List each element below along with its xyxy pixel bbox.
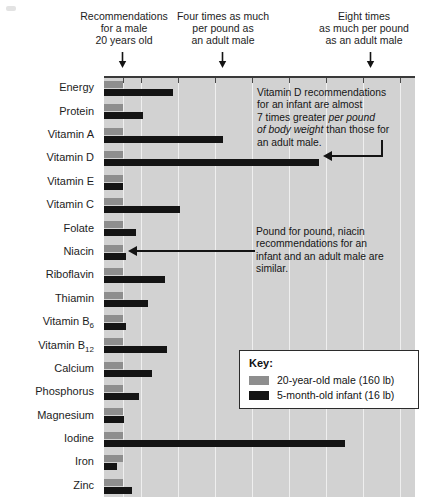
bar-infant-calcium xyxy=(104,370,152,377)
legend-item-infant: 5-month-old infant (16 lb) xyxy=(249,389,410,401)
bar-infant-thiamin xyxy=(104,300,148,307)
arrow-down-icon-1x xyxy=(118,52,127,68)
y-axis-labels: EnergyProteinVitamin AVitamin DVitamin E… xyxy=(0,76,100,497)
bar-infant-vitamin-b12 xyxy=(104,346,167,353)
y-label-vitamin-b12: Vitamin B12 xyxy=(38,340,94,355)
callout-niacin-line4: similar. xyxy=(256,263,288,274)
y-label-iodine: Iodine xyxy=(64,433,94,444)
bar-infant-iodine xyxy=(104,440,345,447)
bar-row xyxy=(104,289,415,312)
callout-vitamin-d: Vitamin D recommendations for an infant … xyxy=(257,87,415,149)
y-label-vitamin-e: Vitamin E xyxy=(47,176,94,187)
bar-row xyxy=(104,148,415,171)
legend-swatch-infant xyxy=(249,391,269,400)
bar-infant-vitamin-e xyxy=(104,183,123,190)
bar-adult-vitamin-e xyxy=(104,175,123,182)
bar-adult-vitamin-c xyxy=(104,198,123,205)
legend-label-infant: 5-month-old infant (16 lb) xyxy=(277,389,394,401)
legend: Key: 20-year-old male (160 lb) 5-month-o… xyxy=(239,350,419,409)
callout-vitd-line3a: 7 times greater xyxy=(257,112,329,123)
y-label-zinc: Zinc xyxy=(73,480,94,491)
callout-vitd-line4a: of body weight xyxy=(257,124,323,135)
bar-adult-phosphorus xyxy=(104,385,123,392)
bar-infant-niacin xyxy=(104,253,126,260)
bar-adult-vitamin-b6 xyxy=(104,315,123,322)
callout-vitd-line5: an adult male. xyxy=(257,137,322,148)
legend-item-adult: 20-year-old male (160 lb) xyxy=(249,374,410,386)
y-label-iron: Iron xyxy=(75,456,94,467)
callout-vitd-line1: Vitamin D recommendations xyxy=(257,87,386,98)
scan-artifact xyxy=(6,6,16,11)
callout-niacin: Pound for pound, niacin recommendations … xyxy=(256,226,416,276)
bar-adult-thiamin xyxy=(104,292,123,299)
callout-vitd-line4b: than those for xyxy=(323,124,389,135)
y-label-vitamin-a: Vitamin A xyxy=(48,129,94,140)
y-label-protein: Protein xyxy=(59,106,94,117)
arrow-left-icon-vitamin-d xyxy=(323,151,332,161)
bar-row xyxy=(104,195,415,218)
y-label-energy: Energy xyxy=(59,82,94,93)
callout-vitd-line3b: per pound xyxy=(329,112,375,123)
callout-niacin-line2: recommendations for an xyxy=(256,238,367,249)
bar-infant-magnesium xyxy=(104,416,124,423)
arrow-left-icon-niacin xyxy=(128,246,137,256)
bar-infant-phosphorus xyxy=(104,393,139,400)
bar-adult-calcium xyxy=(104,362,123,369)
y-label-niacin: Niacin xyxy=(63,246,94,257)
legend-label-adult: 20-year-old male (160 lb) xyxy=(277,374,394,386)
bar-adult-iron xyxy=(104,455,123,462)
bar-infant-folate xyxy=(104,229,136,236)
bar-adult-vitamin-a xyxy=(104,128,123,135)
legend-title: Key: xyxy=(249,357,410,369)
bar-infant-vitamin-b6 xyxy=(104,323,126,330)
callout-vitd-line2: for an infant are almost xyxy=(257,99,362,110)
bar-row xyxy=(104,172,415,195)
bar-infant-zinc xyxy=(104,487,132,494)
y-label-vitamin-c: Vitamin C xyxy=(47,199,94,210)
bar-adult-magnesium xyxy=(104,408,123,415)
y-label-folate: Folate xyxy=(63,223,94,234)
arrow-down-icon-8x xyxy=(366,52,375,68)
y-label-phosphorus: Phosphorus xyxy=(35,386,94,397)
callout-niacin-line3: infant and an adult male are xyxy=(256,251,384,262)
annotation-eight-times: Eight times as much per pound as an adul… xyxy=(300,10,428,47)
bar-infant-iron xyxy=(104,463,117,470)
y-label-vitamin-d: Vitamin D xyxy=(47,152,94,163)
bar-row xyxy=(104,452,415,475)
arrow-down-icon-4x xyxy=(218,52,227,68)
y-label-vitamin-b6: Vitamin B6 xyxy=(43,316,94,331)
callout-niacin-line1: Pound for pound, niacin xyxy=(256,226,365,237)
bar-adult-vitamin-d xyxy=(104,151,123,158)
annotation-four-times: Four times as much per pound as an adult… xyxy=(160,10,286,47)
bar-row xyxy=(104,429,415,452)
bar-infant-protein xyxy=(104,112,143,119)
bar-adult-iodine xyxy=(104,432,123,439)
legend-swatch-adult xyxy=(249,376,269,385)
bar-adult-riboflavin xyxy=(104,268,123,275)
y-label-magnesium: Magnesium xyxy=(37,410,94,421)
bar-infant-energy xyxy=(104,89,173,96)
plot-area: Vitamin D recommendations for an infant … xyxy=(104,76,415,497)
bar-infant-vitamin-c xyxy=(104,206,180,213)
y-label-calcium: Calcium xyxy=(54,363,94,374)
bar-row xyxy=(104,312,415,335)
bar-adult-vitamin-b12 xyxy=(104,338,123,345)
bar-adult-zinc xyxy=(104,479,123,486)
chart-canvas: Recommendations for a male 20 years old … xyxy=(0,0,428,502)
bar-infant-vitamin-a xyxy=(104,136,223,143)
bar-infant-riboflavin xyxy=(104,276,165,283)
leader-vitamin-d-horizontal xyxy=(332,155,383,157)
y-label-riboflavin: Riboflavin xyxy=(46,269,94,280)
bar-adult-energy xyxy=(104,81,123,88)
y-label-thiamin: Thiamin xyxy=(55,293,94,304)
bar-infant-vitamin-d xyxy=(104,159,319,166)
leader-niacin-horizontal xyxy=(137,250,255,252)
bar-row xyxy=(104,476,415,499)
bar-adult-protein xyxy=(104,104,123,111)
bar-adult-folate xyxy=(104,221,123,228)
bar-adult-niacin xyxy=(104,245,123,252)
